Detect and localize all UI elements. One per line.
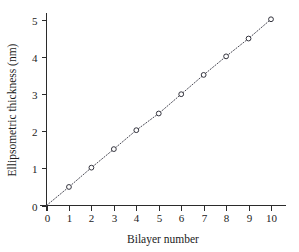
x-tick-label-4: 4 <box>134 212 140 224</box>
x-tick-label-2: 2 <box>89 212 95 224</box>
data-point <box>201 73 206 78</box>
data-point <box>224 54 229 59</box>
chart-plot-area: 012345678910 012345 Bilayer number Ellip… <box>0 0 299 252</box>
y-axis-title: Ellipsometric thickness (nm) <box>6 43 19 176</box>
x-axis-title: Bilayer number <box>127 233 199 246</box>
x-tick-label-5: 5 <box>157 212 163 224</box>
x-axis-ticks <box>48 206 272 211</box>
x-tick-label-10: 10 <box>266 212 278 224</box>
x-tick-label-8: 8 <box>224 212 230 224</box>
y-axis-tick-labels: 012345 <box>32 15 38 213</box>
data-point <box>134 128 139 133</box>
data-point <box>246 36 251 41</box>
x-tick-label-7: 7 <box>202 212 208 224</box>
chart-figure: 012345678910 012345 Bilayer number Ellip… <box>0 0 299 252</box>
y-tick-label-3: 3 <box>32 89 38 101</box>
data-point <box>89 165 94 170</box>
x-axis-tick-labels: 012345678910 <box>45 212 278 224</box>
data-point <box>179 92 184 97</box>
data-point <box>269 17 274 22</box>
y-tick-label-0: 0 <box>32 201 38 213</box>
data-point <box>67 185 72 190</box>
x-tick-label-3: 3 <box>112 212 118 224</box>
y-axis-ticks <box>42 21 47 207</box>
data-point <box>156 111 161 116</box>
y-tick-label-2: 2 <box>32 126 38 138</box>
x-tick-label-9: 9 <box>247 212 253 224</box>
y-tick-label-5: 5 <box>32 15 38 27</box>
y-tick-label-1: 1 <box>32 163 38 175</box>
x-tick-label-6: 6 <box>179 212 185 224</box>
x-tick-label-1: 1 <box>67 212 73 224</box>
x-tick-label-0: 0 <box>45 212 51 224</box>
axes-group <box>40 13 286 211</box>
series-markers <box>67 17 274 189</box>
data-point <box>111 147 116 152</box>
y-tick-label-4: 4 <box>32 52 38 64</box>
